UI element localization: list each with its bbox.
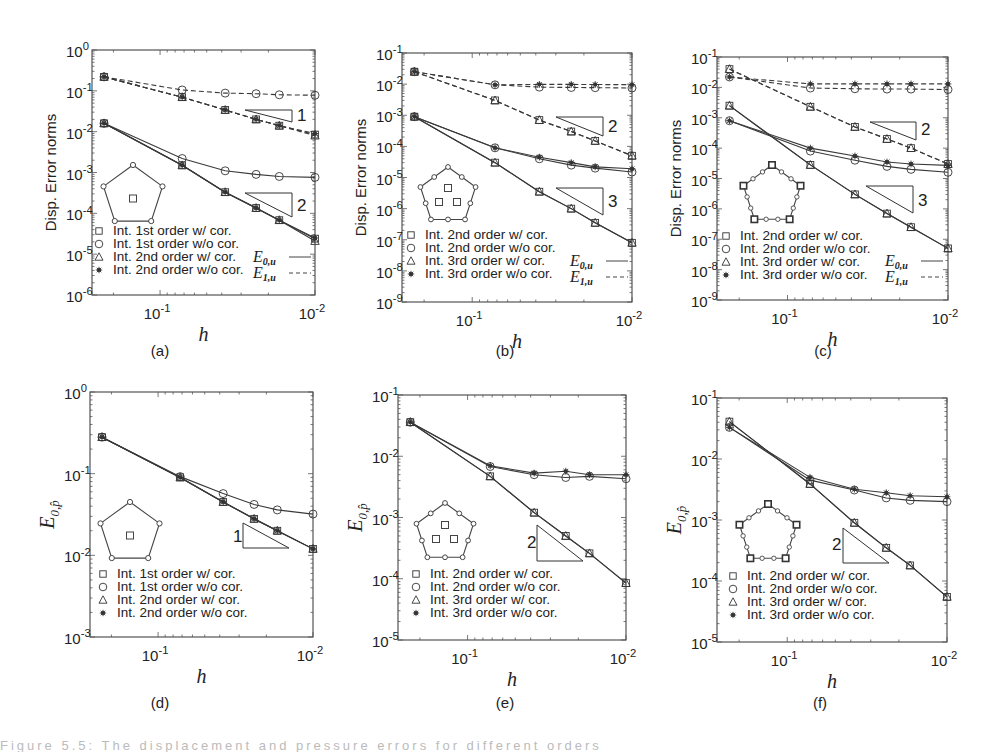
edge-node (760, 556, 764, 560)
star-marker-core (409, 421, 412, 424)
interior-node (445, 185, 452, 192)
slope-label: 2 (608, 117, 617, 136)
vertex-node (740, 183, 746, 189)
star-marker-core (278, 124, 281, 127)
x-axis-label: h (199, 323, 209, 345)
star-marker-core (313, 236, 316, 239)
pentagon-element-icon (420, 167, 475, 219)
slope-triangle (870, 122, 916, 140)
legend-item-label: Int. 2nd order w/o cor. (117, 605, 248, 620)
y-tick-label: 10-2 (691, 78, 718, 98)
vertex-node (130, 162, 135, 167)
series-line (102, 437, 313, 514)
series-line (104, 77, 315, 95)
y-tick-label: 10-7 (376, 230, 403, 250)
interior-node (454, 199, 461, 206)
y-tick-label: 10-2 (66, 122, 93, 142)
y-tick-label: 10-8 (691, 260, 718, 280)
panel-a: 10010-110-210-310-410-510-610-110-2hDisp… (42, 40, 325, 345)
y-axis-label: E0,p̂ (663, 505, 689, 535)
star-marker-core (493, 83, 496, 86)
vertex-node (797, 183, 803, 189)
square-marker (413, 571, 419, 577)
star-marker-core (728, 426, 731, 429)
y-tick-label: 10-4 (691, 138, 718, 158)
star-marker-core (885, 491, 888, 494)
edge-node (446, 217, 451, 222)
star-marker-core (102, 122, 105, 125)
y-tick-label: 10-4 (376, 137, 403, 157)
star-marker-core (728, 75, 731, 78)
edge-node (775, 509, 779, 513)
series-line (729, 121, 948, 166)
y-tick-label: 100 (66, 40, 89, 60)
x-axis-label: h (827, 670, 837, 692)
y-tick-label: 100 (64, 382, 87, 402)
x-axis-label: h (507, 668, 517, 690)
star-marker-core (630, 83, 633, 86)
vertex-node (414, 521, 419, 526)
vertex-node (109, 555, 114, 560)
legend-item-label: Int. 3rd order w/o cor. (747, 607, 875, 622)
edge-node (745, 545, 749, 549)
edge-node (468, 201, 473, 206)
y-axis-label: Disp. Error norms (352, 119, 369, 237)
interior-node (442, 522, 449, 529)
star-marker-core (809, 82, 812, 85)
vertex-node (747, 555, 753, 561)
vertex-node (101, 184, 106, 189)
y-tick-label: 10-5 (376, 168, 403, 188)
edge-node (420, 538, 425, 543)
series-line (729, 106, 948, 249)
y-tick-label: 10-1 (64, 464, 91, 484)
y-tick-label: 10-2 (691, 449, 718, 469)
y-tick-label: 10-1 (66, 81, 93, 101)
interior-node (451, 536, 458, 543)
star-marker-core (624, 473, 627, 476)
vertex-node (769, 162, 775, 168)
vertex-node (736, 522, 742, 528)
plots-canvas: 10010-110-210-310-410-510-610-110-2hDisp… (0, 0, 996, 752)
star-marker-core (731, 613, 734, 616)
x-axis-label: h (197, 665, 207, 687)
edge-node (756, 509, 760, 513)
edge-node (760, 170, 764, 174)
pentagon-element-icon (739, 504, 796, 558)
circle-marker (729, 585, 737, 593)
star-marker-core (179, 476, 182, 479)
star-marker-core (313, 132, 316, 135)
interior-node (433, 536, 440, 543)
pentagon-element-icon (743, 165, 800, 219)
edge-node (751, 177, 755, 181)
star-marker-core (808, 476, 811, 479)
edge-node (747, 516, 751, 520)
star-marker-core (853, 488, 856, 491)
y-tick-label: 10-5 (691, 632, 718, 652)
star-marker-core (594, 165, 597, 168)
star-marker-core (809, 147, 812, 150)
star-marker-core (224, 108, 227, 111)
slope-label: 3 (608, 192, 617, 211)
star-marker-core (409, 272, 412, 275)
vertex-node (418, 185, 423, 190)
edge-node (741, 534, 745, 538)
circle-marker (407, 244, 415, 252)
slope-label: 2 (921, 120, 930, 139)
panel-e: 10-110-210-310-410-510-110-2hE0,p̂2Int. … (344, 385, 636, 690)
y-tick-label: 10-2 (372, 447, 399, 467)
triangle-marker (407, 257, 415, 264)
series-line (729, 427, 947, 501)
star-marker-core (946, 82, 949, 85)
edge-node (787, 545, 791, 549)
series-line (104, 77, 315, 134)
star-marker-core (946, 164, 949, 167)
pentagon-element-icon (416, 503, 473, 557)
legend-item-label: Int. 3rd order w/o cor. (430, 605, 558, 620)
edge-node (443, 555, 448, 560)
pentagon-element-icon (101, 502, 160, 558)
star-marker-core (181, 164, 184, 167)
legend-item-label: Int. 3rd order w/o cor. (740, 267, 868, 282)
legend-item-label: Int. 2nd order w/o cor. (113, 262, 244, 277)
y-tick-label: 10-3 (64, 627, 91, 647)
edge-node (457, 511, 462, 516)
